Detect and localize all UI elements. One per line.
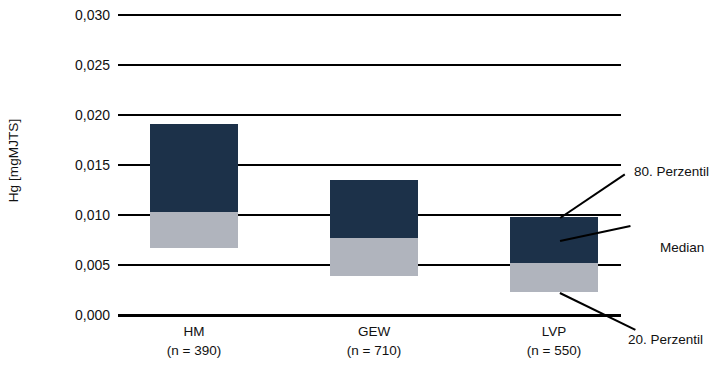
y-tick-label-0000: 0,000 xyxy=(34,307,110,323)
chart-figure: Hg [mgMJTS] 0,030 0,025 0,020 0,015 0,01… xyxy=(0,0,728,372)
bar-lvp xyxy=(510,217,598,292)
bar-hm xyxy=(150,124,238,248)
annotation-p20: 20. Perzentil xyxy=(628,332,703,347)
bar-gew-upper-box xyxy=(330,180,418,238)
bar-hm-lower-box xyxy=(150,212,238,248)
x-category-hm: HM (n = 390) xyxy=(134,322,254,360)
x-category-hm-name: HM xyxy=(184,324,205,339)
y-tick-label-0010: 0,010 xyxy=(34,207,110,223)
x-category-gew: GEW (n = 710) xyxy=(314,322,434,360)
gridline-baseline-0000 xyxy=(118,314,621,317)
x-category-lvp-n: (n = 550) xyxy=(494,341,614,360)
bar-gew xyxy=(330,180,418,276)
y-tick-label-0020: 0,020 xyxy=(34,107,110,123)
annotation-p80: 80. Perzentil xyxy=(634,164,709,179)
x-category-gew-name: GEW xyxy=(358,324,390,339)
y-tick-label-0015: 0,015 xyxy=(34,157,110,173)
y-tick-label-0025: 0,025 xyxy=(34,57,110,73)
bar-lvp-lower-box xyxy=(510,263,598,292)
bar-lvp-upper-box xyxy=(510,217,598,263)
gridline-0025 xyxy=(118,64,621,66)
x-category-gew-n: (n = 710) xyxy=(314,341,434,360)
gridline-0020 xyxy=(118,114,621,116)
x-category-lvp-name: LVP xyxy=(542,324,567,339)
x-category-hm-n: (n = 390) xyxy=(134,341,254,360)
bar-gew-lower-box xyxy=(330,238,418,276)
x-category-lvp: LVP (n = 550) xyxy=(494,322,614,360)
bar-hm-upper-box xyxy=(150,124,238,212)
y-axis-title-label: Hg [mgMJTS] xyxy=(7,118,22,202)
gridline-0030 xyxy=(118,14,621,16)
annotation-median: Median xyxy=(660,240,704,255)
y-axis-title: Hg [mgMJTS] xyxy=(0,0,28,320)
y-tick-label-0005: 0,005 xyxy=(34,257,110,273)
y-tick-label-0030: 0,030 xyxy=(34,7,110,23)
leader-line-p80 xyxy=(560,174,626,219)
